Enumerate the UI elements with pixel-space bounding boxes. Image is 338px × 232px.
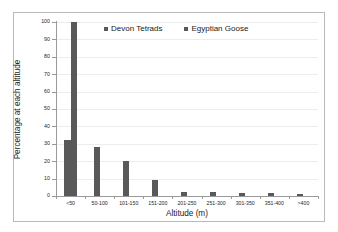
x-axis-tick — [143, 196, 144, 199]
y-axis-tick-label: 10 — [30, 176, 50, 181]
bar — [239, 193, 245, 196]
y-axis-tick-label: 30 — [30, 141, 50, 146]
bar — [71, 22, 77, 196]
bar — [94, 147, 100, 196]
legend-label: Egyptian Goose — [191, 24, 248, 33]
legend-label: Devon Tetrads — [111, 24, 162, 33]
x-axis-tick — [260, 196, 261, 199]
bar — [152, 180, 158, 196]
x-axis-tick — [231, 196, 232, 199]
y-axis-tick-label: 40 — [30, 124, 50, 129]
chart-figure: 0102030405060708090100 <5050-100101-1501… — [0, 0, 338, 232]
legend-item-devon-tetrads: Devon Tetrads — [104, 24, 162, 33]
chart-legend: Devon Tetrads Egyptian Goose — [104, 24, 248, 33]
bar — [123, 161, 129, 196]
x-axis-tick — [202, 196, 203, 199]
legend-swatch-icon — [184, 27, 188, 31]
y-axis-tick-label: 50 — [30, 106, 50, 111]
plot-area — [56, 22, 318, 196]
y-axis-title: Percentage at each altitude — [13, 30, 22, 190]
y-axis-tick-label: 0 — [30, 193, 50, 198]
x-axis-tick — [318, 196, 319, 199]
x-axis-tick — [114, 196, 115, 199]
legend-swatch-icon — [104, 27, 108, 31]
x-axis-tick — [172, 196, 173, 199]
y-axis-tick-label: 90 — [30, 37, 50, 42]
x-axis-tick — [56, 196, 57, 199]
bar — [297, 194, 303, 196]
y-axis-tick-label: 20 — [30, 159, 50, 164]
x-axis-title: Altitude (m) — [56, 209, 318, 218]
y-axis-tick-label: 80 — [30, 54, 50, 59]
x-axis-tick — [289, 196, 290, 199]
x-axis-tick — [85, 196, 86, 199]
bar — [210, 192, 216, 196]
y-axis-tick-label: 60 — [30, 89, 50, 94]
y-axis-tick-label: 100 — [30, 19, 50, 24]
bar — [268, 193, 274, 196]
x-axis-tick-label: >400 — [283, 201, 323, 206]
bar — [181, 192, 187, 196]
legend-item-egyptian-goose: Egyptian Goose — [184, 24, 248, 33]
y-axis-tick-label: 70 — [30, 72, 50, 77]
